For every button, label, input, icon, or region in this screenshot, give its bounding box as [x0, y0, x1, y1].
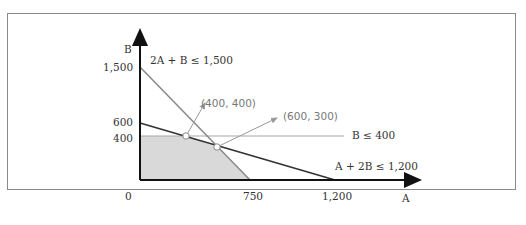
y-tick-600: 600 — [113, 116, 133, 128]
y-tick-400: 400 — [113, 132, 133, 144]
point-label-600-300: (600, 300) — [283, 110, 338, 122]
point-600-300 — [214, 144, 220, 150]
point-400-400 — [183, 133, 189, 139]
x-tick-750: 750 — [243, 190, 263, 202]
constraint-label-b-400: B ≤ 400 — [352, 129, 395, 141]
constraint-label-a-2b: A + 2B ≤ 1,200 — [334, 160, 418, 172]
y-axis-label: B — [124, 43, 132, 55]
feasible-region — [140, 136, 250, 180]
x-tick-1200: 1,200 — [322, 190, 352, 202]
point-label-400-400: (400, 400) — [201, 97, 256, 109]
x-tick-0: 0 — [125, 190, 132, 202]
linear-programming-diagram: B A 1,500 600 400 0 750 1,200 2A + B ≤ 1… — [0, 0, 526, 225]
y-tick-1500: 1,500 — [103, 61, 133, 73]
constraint-label-2a-b: 2A + B ≤ 1,500 — [150, 54, 233, 66]
annotation-arrow-600-300 — [217, 118, 277, 147]
x-axis-label: A — [401, 192, 410, 204]
